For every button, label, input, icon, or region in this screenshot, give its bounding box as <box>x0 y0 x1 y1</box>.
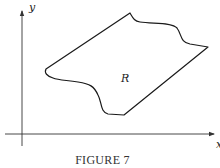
region-label: R <box>121 73 129 84</box>
x-axis-label: x <box>216 139 220 150</box>
diagram-canvas <box>0 0 220 168</box>
y-axis-label: y <box>29 2 35 13</box>
figure-7: y x R FIGURE 7 <box>0 0 220 168</box>
region-r-boundary <box>45 13 208 115</box>
figure-caption: FIGURE 7 <box>0 153 205 168</box>
